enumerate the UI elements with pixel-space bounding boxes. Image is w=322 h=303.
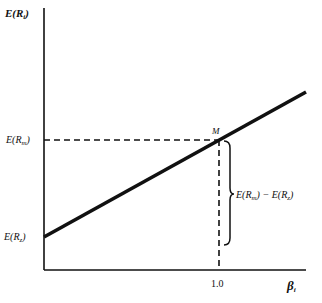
sml-diagram	[0, 0, 322, 303]
risk-premium-brace	[224, 141, 234, 245]
zero-beta-return-label: E(Rz)	[4, 232, 26, 244]
x-axis-label: βi	[287, 279, 296, 294]
market-return-label: E(Rm)	[6, 135, 30, 147]
risk-premium-label: E(Rm) − E(Rz)	[236, 190, 293, 202]
market-point-label: M	[212, 127, 220, 136]
security-market-line	[44, 92, 306, 237]
y-axis-label: E(Ri)	[5, 8, 29, 21]
x-tick-label: 1.0	[211, 279, 224, 289]
